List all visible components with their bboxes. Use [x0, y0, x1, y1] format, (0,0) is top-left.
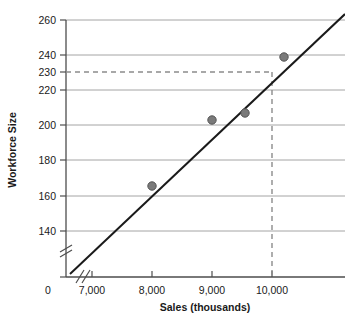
data-point	[148, 182, 156, 190]
y-tick-label: 180	[38, 154, 56, 166]
y-tick-label: 220	[38, 84, 56, 96]
x-axis-ticks	[92, 271, 272, 277]
y-tick-label: 240	[38, 49, 56, 61]
y-tick-label: 260	[38, 14, 56, 26]
x-tick-label: 7,000	[79, 284, 105, 296]
x-tick-label: 10,000	[256, 284, 288, 296]
scatter-chart: 260 240 230 220 200 180 160 140 0 7,000 …	[0, 0, 345, 318]
x-tick-label-origin: 0	[45, 284, 51, 296]
data-point	[241, 109, 249, 117]
y-axis-tick-labels: 260 240 230 220 200 180 160 140	[38, 14, 56, 237]
regression-line	[70, 14, 345, 274]
x-axis-tick-labels: 0 7,000 8,000 9,000 10,000	[45, 284, 288, 296]
x-tick-label: 9,000	[199, 284, 225, 296]
y-axis-title: Workforce Size	[6, 112, 18, 188]
y-tick-label: 200	[38, 119, 56, 131]
y-tick-label: 140	[38, 225, 56, 237]
data-point	[208, 116, 216, 124]
x-tick-label: 8,000	[139, 284, 165, 296]
data-points	[148, 53, 288, 190]
y-tick-label: 230	[38, 66, 56, 78]
data-point	[280, 53, 288, 61]
x-axis-title: Sales (thousands)	[160, 301, 250, 313]
chart-canvas: 260 240 230 220 200 180 160 140 0 7,000 …	[0, 0, 345, 318]
gridlines	[66, 20, 345, 231]
y-axis-ticks	[60, 20, 66, 277]
y-tick-label: 160	[38, 190, 56, 202]
